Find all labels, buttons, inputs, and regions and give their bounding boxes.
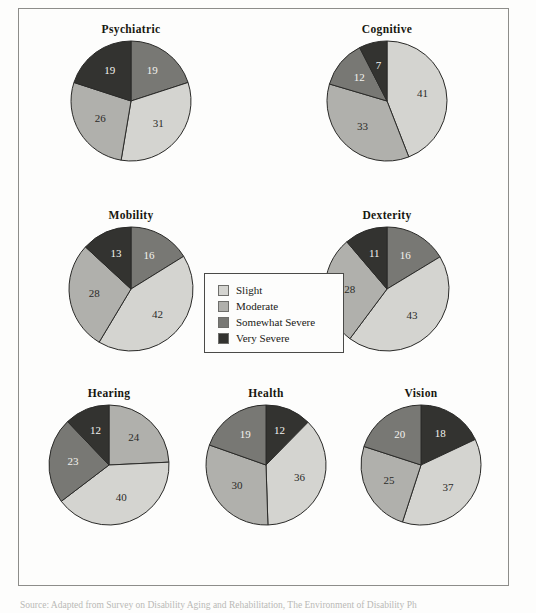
pie-slice-value: 30 — [231, 479, 243, 491]
pie-canvas-psychiatric: 19312619 — [41, 39, 221, 163]
pie-slice-value: 31 — [153, 117, 164, 129]
pie-title-hearing: Hearing — [29, 387, 189, 399]
legend-label-very-severe: Very Severe — [236, 333, 289, 344]
legend-item-somewhat-severe: Somewhat Severe — [218, 315, 343, 330]
legend-label-somewhat-severe: Somewhat Severe — [236, 317, 315, 328]
legend-swatch-moderate — [218, 301, 229, 312]
pie-canvas-vision: 18372520 — [341, 403, 501, 527]
pie-chart-mobility: Mobility16422813 — [41, 209, 221, 357]
pie-slice-value: 43 — [407, 309, 419, 321]
pie-canvas-cognitive: 4133127 — [297, 39, 477, 163]
pie-slice-value: 25 — [383, 474, 395, 486]
pie-slice-value: 18 — [435, 427, 447, 439]
pie-slice-value: 16 — [400, 249, 412, 261]
pie-slice-value: 33 — [357, 120, 369, 132]
legend-item-slight: Slight — [218, 283, 343, 298]
pie-slice-value: 11 — [369, 247, 380, 259]
pie-canvas-hearing: 24402312 — [29, 403, 189, 527]
figure-frame: Psychiatric19312619Cognitive4133127Mobil… — [18, 8, 509, 586]
pie-slice-value: 28 — [344, 283, 356, 295]
pie-slice-value: 19 — [240, 428, 252, 440]
pie-title-dexterity: Dexterity — [297, 209, 477, 221]
legend-swatch-very-severe — [218, 333, 229, 344]
legend-swatch-slight — [218, 285, 229, 296]
pie-slice-value: 12 — [274, 424, 285, 436]
pie-slice-value: 19 — [147, 64, 159, 76]
pie-slice-value: 28 — [89, 287, 101, 299]
pie-canvas-health: 12363019 — [186, 403, 346, 527]
pie-slice-value: 40 — [116, 491, 128, 503]
pie-chart-vision: Vision18372520 — [341, 387, 501, 531]
pie-slice-value: 20 — [394, 428, 406, 440]
pie-chart-psychiatric: Psychiatric19312619 — [41, 23, 221, 167]
pie-canvas-mobility: 16422813 — [41, 225, 221, 353]
pie-title-mobility: Mobility — [41, 209, 221, 221]
legend-item-very-severe: Very Severe — [218, 331, 343, 346]
pie-slice-value: 19 — [104, 64, 116, 76]
pie-slice-value: 12 — [90, 424, 101, 436]
pie-title-psychiatric: Psychiatric — [41, 23, 221, 35]
legend-swatch-somewhat-severe — [218, 317, 229, 328]
pie-title-cognitive: Cognitive — [297, 23, 477, 35]
figure-caption: Source: Adapted from Survey on Disabilit… — [20, 600, 520, 613]
pie-slice-value: 7 — [376, 59, 382, 71]
pie-title-health: Health — [186, 387, 346, 399]
pie-slice-value: 37 — [443, 481, 455, 493]
pie-title-vision: Vision — [341, 387, 501, 399]
pie-slice-value: 26 — [95, 112, 107, 124]
pie-chart-cognitive: Cognitive4133127 — [297, 23, 477, 167]
pie-slice-value: 24 — [128, 431, 140, 443]
pie-slice-value: 36 — [294, 471, 306, 483]
legend-label-slight: Slight — [236, 285, 262, 296]
pie-slice-value: 42 — [152, 308, 163, 320]
pie-chart-health: Health12363019 — [186, 387, 346, 531]
pie-slice-value: 16 — [144, 249, 156, 261]
pie-slice-value: 41 — [417, 87, 428, 99]
pie-chart-hearing: Hearing24402312 — [29, 387, 189, 531]
pie-slice-value: 12 — [354, 71, 365, 83]
legend-item-moderate: Moderate — [218, 299, 343, 314]
pie-slice-value: 13 — [111, 247, 123, 259]
pie-slice-value: 23 — [68, 455, 80, 467]
chart-legend: Slight Moderate Somewhat Severe Very Sev… — [204, 273, 344, 353]
legend-label-moderate: Moderate — [236, 301, 278, 312]
